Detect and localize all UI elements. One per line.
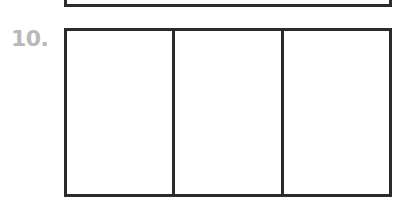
- previous-item-box: [64, 0, 392, 7]
- item-number-label: 10.: [11, 27, 48, 51]
- box-cell-1[interactable]: [67, 31, 172, 194]
- box-cell-3[interactable]: [281, 31, 389, 194]
- box-cell-2[interactable]: [172, 31, 280, 194]
- fraction-box-thirds: [64, 28, 392, 197]
